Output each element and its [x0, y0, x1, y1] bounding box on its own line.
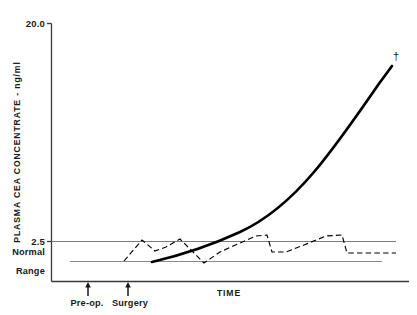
surgery-arrow-marker: [125, 282, 131, 296]
preop-arrow-marker: [85, 282, 91, 296]
y-tick-label-top: 20.0: [26, 18, 45, 29]
y-tick-label-mid: 2.5: [31, 236, 45, 247]
x-axis-title: TIME: [217, 288, 241, 298]
chart-canvas: 20.0 2.5 Normal Range PLASMA CEA CONCENT…: [0, 0, 417, 315]
recurrent-course-curve: [152, 66, 392, 262]
event-markers: [85, 282, 131, 296]
death-dagger-icon: †: [393, 50, 399, 62]
y-axis-title: PLASMA CEA CONCENTRATE - ng/ml: [12, 61, 22, 242]
preop-label: Pre-op.: [70, 298, 103, 308]
surgery-label: Surgery: [112, 298, 149, 308]
normal-band-label: Normal: [12, 247, 45, 257]
range-band-label: Range: [16, 266, 45, 276]
preop-arrow-head-icon: [85, 282, 91, 287]
cea-concentration-chart: 20.0 2.5 Normal Range PLASMA CEA CONCENT…: [0, 0, 417, 315]
surgery-arrow-head-icon: [125, 282, 131, 287]
axis-group: [47, 24, 409, 282]
normal-range-band: [52, 242, 397, 262]
